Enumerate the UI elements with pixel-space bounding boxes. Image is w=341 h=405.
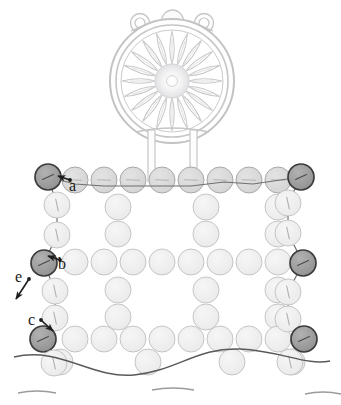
lattice-node bbox=[193, 221, 219, 247]
lattice-node bbox=[105, 194, 131, 220]
label-a: a bbox=[69, 178, 76, 194]
lattice-node bbox=[193, 277, 219, 303]
node-facet-mark bbox=[156, 180, 169, 181]
label-e: e bbox=[15, 269, 22, 285]
lattice-node bbox=[207, 326, 233, 352]
lattice-node bbox=[149, 326, 175, 352]
rose-window-medallion bbox=[110, 10, 234, 143]
lattice-node bbox=[91, 249, 117, 275]
lattice-interior-nodes bbox=[47, 167, 305, 375]
node-facet-mark bbox=[185, 180, 198, 181]
label-e-arrow-anchor bbox=[27, 277, 31, 281]
lattice-node bbox=[265, 249, 291, 275]
cut-off-arc-row bbox=[18, 388, 341, 394]
node-facet-mark bbox=[214, 180, 227, 181]
lattice-node bbox=[207, 249, 233, 275]
medallion-hub bbox=[155, 64, 189, 98]
figure-canvas: a b c e bbox=[0, 0, 341, 405]
diagram-svg bbox=[0, 0, 341, 405]
label-c-arrow-anchor bbox=[39, 318, 43, 322]
lattice-node bbox=[236, 326, 262, 352]
lattice-node bbox=[236, 249, 262, 275]
lattice-node bbox=[178, 326, 204, 352]
lattice-node-partial bbox=[219, 349, 245, 375]
lattice-node bbox=[178, 249, 204, 275]
node-facet-mark bbox=[243, 180, 256, 181]
lattice-node bbox=[193, 194, 219, 220]
lattice-node bbox=[105, 277, 131, 303]
lattice-node bbox=[62, 326, 88, 352]
lattice-node bbox=[105, 304, 131, 330]
lattice-node bbox=[193, 304, 219, 330]
lattice-node bbox=[120, 326, 146, 352]
node-facet-mark bbox=[98, 180, 111, 181]
lattice-node bbox=[105, 221, 131, 247]
node-facet-mark bbox=[127, 180, 140, 181]
lattice-node bbox=[120, 249, 146, 275]
label-c: c bbox=[28, 312, 35, 328]
lattice-node bbox=[91, 326, 117, 352]
label-b: b bbox=[58, 256, 66, 272]
lattice-node bbox=[149, 249, 175, 275]
